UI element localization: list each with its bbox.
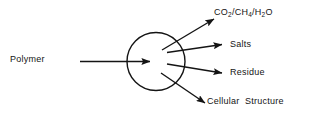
- output-arrow-gases: [162, 19, 214, 50]
- output-label-residue: Residue: [230, 68, 265, 77]
- output-label-gases: CO2/CH4/H2O: [214, 8, 273, 17]
- input-label-polymer: Polymer: [10, 55, 45, 64]
- output-label-salts: Salts: [230, 40, 251, 49]
- output-arrow-salts: [167, 45, 222, 53]
- output-label-cellular-structure: Cellular Structure: [207, 97, 284, 106]
- diagram-canvas: Polymer CO2/CH4/H2O Salts Residue Cellul…: [0, 0, 311, 121]
- output-arrow-residue: [167, 64, 222, 73]
